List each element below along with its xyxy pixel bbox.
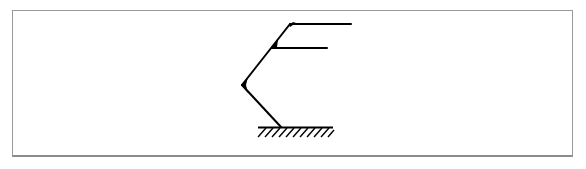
joint-fillets (241, 22, 296, 93)
structural-diagram (0, 0, 586, 169)
ground-hatching (258, 128, 334, 137)
knee-joint-fillet (241, 77, 248, 93)
lower-leg-member (242, 85, 281, 127)
upper-leg-member (242, 24, 290, 85)
frame-members (242, 24, 351, 127)
ground-support (258, 128, 334, 138)
